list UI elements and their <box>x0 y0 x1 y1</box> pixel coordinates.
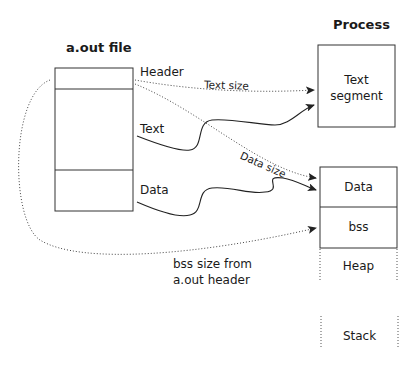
bss-size-label: bss size from a.out header <box>173 256 252 288</box>
data-section-label: Data <box>140 184 169 196</box>
aout-file-box <box>55 68 133 211</box>
header-section-label: Header <box>140 66 184 78</box>
data-segment-label: Data <box>320 181 397 193</box>
bss-size-line2: a.out header <box>173 272 252 288</box>
bss-segment-label: bss <box>320 221 397 233</box>
process-title: Process <box>333 18 390 31</box>
aout-file-title: a.out file <box>66 41 132 54</box>
text-segment-label: Text segment <box>318 72 395 104</box>
text-segment-line2: segment <box>318 88 395 104</box>
stack-segment-label: Stack <box>321 330 398 342</box>
text-segment-line1: Text <box>318 72 395 88</box>
text-size-label: Text size <box>204 79 249 91</box>
text-section-label: Text <box>140 123 164 135</box>
bss-size-line1: bss size from <box>173 256 252 272</box>
heap-segment-label: Heap <box>320 260 397 272</box>
